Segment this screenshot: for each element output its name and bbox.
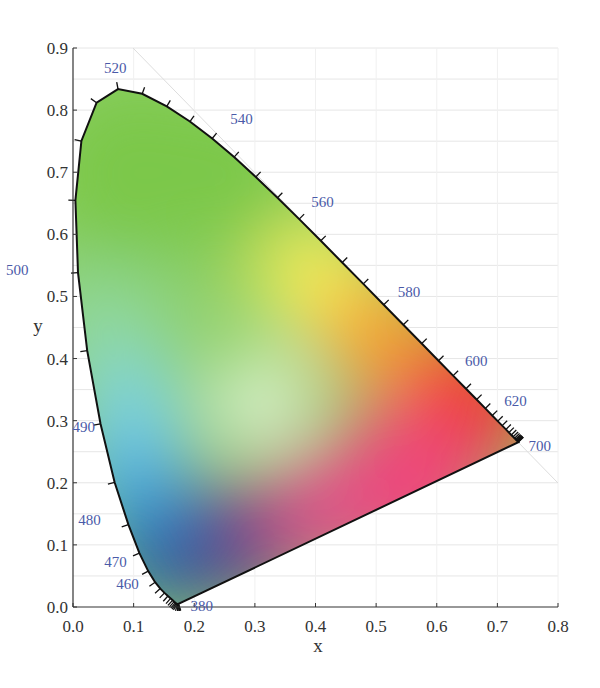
wavelength-label: 520 [104,60,127,76]
y-tick-label: 0.8 [47,101,68,120]
x-tick-label: 0.0 [62,617,83,636]
wavelength-label: 500 [6,262,29,278]
wavelength-label: 380 [191,598,214,614]
y-tick-label: 0.4 [47,350,69,369]
x-tick-label: 0.7 [487,617,509,636]
x-tick-label: 0.8 [547,617,568,636]
y-tick-label: 0.0 [47,598,68,617]
wavelength-label: 700 [528,438,551,454]
y-tick-label: 0.9 [47,39,68,58]
x-tick-label: 0.2 [184,617,205,636]
gamut-fill [39,40,580,620]
wavelength-label: 460 [116,576,139,592]
x-tick-label: 0.5 [366,617,387,636]
wavelength-label: 580 [398,284,421,300]
x-axis-title: x [313,635,323,656]
wavelength-label: 560 [311,194,334,210]
x-tick-label: 0.3 [244,617,265,636]
x-tick-label: 0.6 [426,617,447,636]
y-tick-label: 0.2 [47,474,68,493]
chromaticity-chart: 0.00.10.20.30.40.50.60.70.8 0.00.10.20.3… [0,0,600,688]
x-tick-label: 0.1 [123,617,144,636]
x-tick-label: 0.4 [305,617,327,636]
wavelength-label: 600 [465,353,488,369]
wavelength-label: 620 [504,393,527,409]
wavelength-label: 490 [73,419,96,435]
wavelength-label: 480 [78,512,101,528]
x-tick-labels: 0.00.10.20.30.40.50.60.70.8 [62,603,568,636]
y-tick-label: 0.1 [47,536,68,555]
y-tick-label: 0.3 [47,412,68,431]
y-tick-label: 0.5 [47,287,68,306]
wavelength-label: 540 [230,111,253,127]
y-axis-title: y [33,315,43,336]
y-tick-label: 0.7 [47,163,69,182]
wavelength-label: 470 [104,554,127,570]
y-tick-label: 0.6 [47,225,68,244]
